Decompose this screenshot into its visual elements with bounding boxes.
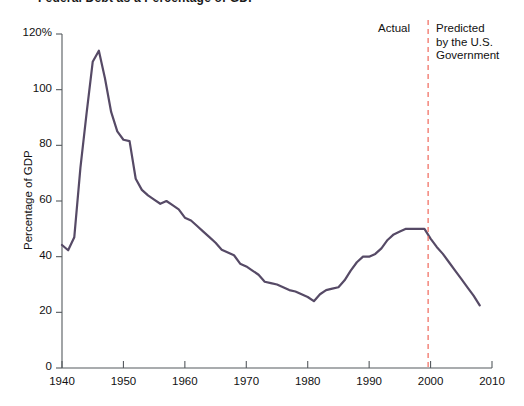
x-axis-tick-label: 1980 xyxy=(283,375,333,387)
x-axis-tick-label: 1990 xyxy=(344,375,394,387)
annotation-actual: Actual xyxy=(324,22,410,36)
annotation-predicted: Predicted by the U.S. Government xyxy=(436,22,522,63)
data-series-group xyxy=(62,51,480,306)
chart-container: Federal Debt as a Percentage of GDP 0204… xyxy=(0,0,524,406)
y-axis-tick-label: 40 xyxy=(0,249,52,261)
x-axis-tick-label: 1960 xyxy=(160,375,210,387)
y-axis-tick-label: 20 xyxy=(0,304,52,316)
x-axis-tick-label: 1970 xyxy=(221,375,271,387)
y-axis-tick-label: 80 xyxy=(0,137,52,149)
x-axis-tick-label: 2010 xyxy=(467,375,517,387)
x-axis-tick-label: 1950 xyxy=(98,375,148,387)
y-axis-tick-label: 100 xyxy=(0,82,52,94)
x-axis-tick-label: 2000 xyxy=(406,375,456,387)
axes-group xyxy=(56,34,492,368)
data-series-line xyxy=(62,51,480,306)
y-axis-title: Percentage of GDP xyxy=(22,150,34,250)
x-axis-tick-label: 1940 xyxy=(37,375,87,387)
y-axis-tick-label: 120% xyxy=(0,26,52,38)
y-axis-tick-label: 0 xyxy=(0,360,52,372)
